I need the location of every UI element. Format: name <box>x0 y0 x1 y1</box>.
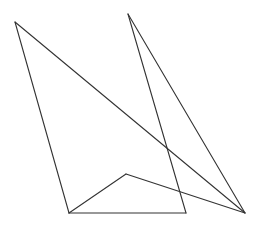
segment-f-c <box>126 174 245 213</box>
segment-b-c <box>128 14 245 213</box>
line-diagram <box>0 0 260 231</box>
segment-e-b <box>128 14 186 213</box>
segment-a-c <box>15 22 245 213</box>
segment-d-f <box>69 174 126 213</box>
segment-a-d <box>15 22 69 213</box>
diagram-segments <box>15 14 245 213</box>
